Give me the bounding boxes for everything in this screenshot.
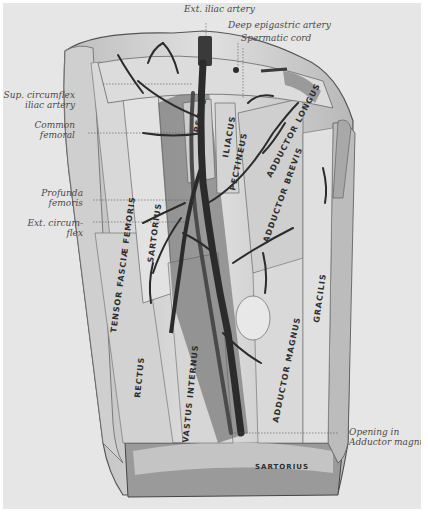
callout-opening-adductor-magnus: Opening in Adductor magnus — [349, 427, 421, 447]
callout-line: Adductor magnus — [349, 437, 421, 447]
callout-spermatic-cord: Spermatic cord — [241, 33, 311, 43]
callout-line: flex — [27, 228, 83, 238]
callout-ext-iliac-artery: Ext. iliac artery — [184, 4, 255, 14]
callout-line: femoris — [41, 198, 83, 208]
callout-ext-circumflex: Ext. circum- flex — [27, 218, 83, 238]
callout-line: Common — [34, 120, 75, 130]
callout-line: Opening in — [349, 427, 421, 437]
callout-common-femoral: Common femoral — [34, 120, 75, 140]
anatomical-plate: TENSOR FASCIÆ FEMORIS SARTORIUS PSOAS IL… — [3, 3, 421, 509]
callout-deep-epigastric-artery: Deep epigastric artery — [228, 20, 331, 30]
callout-profunda-femoris: Profunda femoris — [41, 188, 83, 208]
callout-sup-circumflex-iliac: Sup. circumflex iliac artery — [4, 90, 75, 110]
label-sartorius-lower: SARTORIUS — [255, 463, 309, 471]
callout-line: Sup. circumflex — [4, 90, 75, 100]
callout-line: Ext. circum- — [27, 218, 83, 228]
callout-line: Profunda — [41, 188, 83, 198]
callout-line: iliac artery — [4, 100, 75, 110]
callout-line: femoral — [34, 130, 75, 140]
